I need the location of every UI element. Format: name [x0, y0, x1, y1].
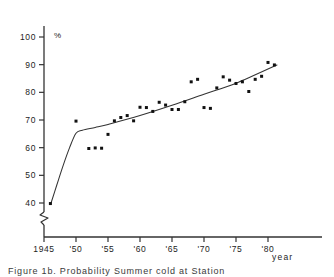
axis-break-zigzag-icon: [40, 212, 48, 225]
data-point: [183, 100, 186, 103]
data-point: [145, 106, 148, 109]
data-point: [171, 108, 174, 111]
data-points: [49, 61, 276, 205]
data-point: [151, 110, 154, 113]
data-point: [209, 107, 212, 110]
data-point: [235, 82, 238, 85]
data-point: [222, 75, 225, 78]
y-axis-tick-label: 80: [2, 88, 36, 97]
data-point: [177, 108, 180, 111]
x-axis-title: year: [272, 252, 293, 262]
y-axis-tick-label: 40: [2, 199, 36, 208]
fitted-trend-curve: [51, 65, 277, 203]
chart-figure: 405060708090100 1945'50'55'60'65'70'75'8…: [0, 0, 334, 277]
data-point: [49, 202, 52, 205]
y-axis-tick-label: 90: [2, 61, 36, 70]
data-point: [113, 119, 116, 122]
data-point: [203, 106, 206, 109]
y-axis-title: %: [54, 31, 62, 40]
data-point: [190, 80, 193, 83]
data-point: [196, 78, 199, 81]
data-point: [139, 106, 142, 109]
data-point: [260, 75, 263, 78]
data-point: [241, 80, 244, 83]
data-point: [247, 90, 250, 93]
data-point: [75, 120, 78, 123]
axis-lines: [44, 26, 322, 237]
y-axis-tick-label: 50: [2, 171, 36, 180]
data-point: [273, 63, 276, 66]
data-point: [132, 119, 135, 122]
figure-caption: Figure 1b. Probability Summer cold at St…: [8, 266, 328, 276]
data-point: [254, 78, 257, 81]
data-point: [215, 86, 218, 89]
data-point: [94, 146, 97, 149]
data-point: [100, 147, 103, 150]
data-point: [126, 114, 129, 117]
data-point: [119, 116, 122, 119]
data-point: [87, 147, 90, 150]
y-axis-tick-label: 70: [2, 116, 36, 125]
y-axis-tick-label: 100: [2, 33, 36, 42]
data-point: [158, 101, 161, 104]
chart-plot-area: [0, 0, 334, 277]
data-point: [267, 61, 270, 64]
data-point: [228, 79, 231, 82]
y-axis-tick-label: 60: [2, 144, 36, 153]
data-point: [164, 104, 167, 107]
data-point: [107, 133, 110, 136]
